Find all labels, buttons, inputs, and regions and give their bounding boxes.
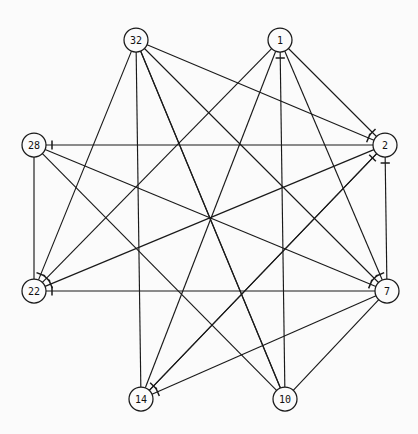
graph-edge-14-to-2 <box>149 154 376 391</box>
graph-node-28[interactable]: 28 <box>22 133 46 157</box>
node-circle-2[interactable] <box>373 133 397 157</box>
graph-node-14[interactable]: 14 <box>129 387 153 411</box>
graph-diagram-canvas: 3212710142228 <box>0 0 418 434</box>
graph-svg: 3212710142228 <box>0 0 418 434</box>
graph-node-10[interactable]: 10 <box>273 387 297 411</box>
node-circle-1[interactable] <box>268 28 292 52</box>
node-circle-7[interactable] <box>375 279 399 303</box>
graph-node-22[interactable]: 22 <box>22 279 46 303</box>
node-circle-32[interactable] <box>124 28 148 52</box>
graph-edge-7-to-2 <box>385 157 387 279</box>
graph-node-1[interactable]: 1 <box>268 28 292 52</box>
graph-edge-32-to-2 <box>147 45 374 141</box>
graph-edge-32-to-7 <box>144 48 378 282</box>
edges-layer <box>34 45 387 395</box>
graph-node-7[interactable]: 7 <box>375 279 399 303</box>
graph-node-32[interactable]: 32 <box>124 28 148 52</box>
node-circle-28[interactable] <box>22 133 46 157</box>
graph-edge-32-to-14 <box>136 52 141 387</box>
node-circle-10[interactable] <box>273 387 297 411</box>
graph-node-2[interactable]: 2 <box>373 133 397 157</box>
graph-edge-1-to-7 <box>285 51 383 280</box>
graph-edge-1-to-22 <box>42 49 271 283</box>
node-circle-14[interactable] <box>129 387 153 411</box>
graph-edge-7-to-14 <box>152 296 376 394</box>
graph-edge-10-to-32 <box>141 51 281 388</box>
node-circle-22[interactable] <box>22 279 46 303</box>
